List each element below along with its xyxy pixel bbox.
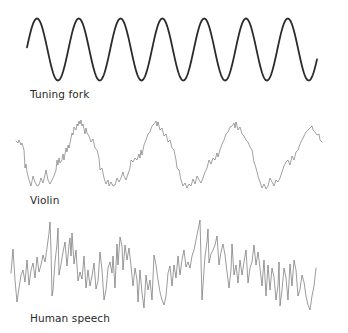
waveforms-canvas — [0, 0, 348, 333]
tuning-fork-label: Tuning fork — [30, 88, 89, 100]
violin-waveform — [16, 120, 322, 189]
tuning-fork-waveform — [27, 19, 317, 81]
human-speech-waveform — [11, 220, 316, 310]
diagram-root: Tuning fork Violin Human speech — [0, 0, 348, 333]
human-speech-label: Human speech — [30, 312, 110, 324]
violin-label: Violin — [30, 194, 59, 206]
